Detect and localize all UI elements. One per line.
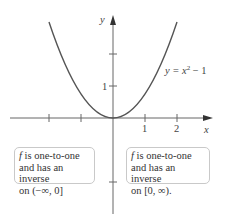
left-note-line3: on (−∞, 0] [19,185,90,197]
left-note-line2: and has an inverse [19,162,90,185]
x-axis-label: x [203,124,209,135]
right-domain-note: f is one-to-one and has an inverse on [0… [126,147,210,184]
y-tick-label-1: 1 [102,81,107,92]
x-axis-arrow-icon [203,115,213,121]
right-note-line2: and has an inverse [131,162,205,185]
x-tick-label-2: 2 [174,123,179,134]
right-note-line1: f is one-to-one [131,150,205,162]
y-axis-arrow-icon [110,15,116,25]
x-tick-label-1: 1 [142,123,147,134]
right-note-line3: on [0, ∞). [131,185,205,197]
curve-label: y = x2 − 1 [164,64,207,76]
left-domain-note: f is one-to-one and has an inverse on (−… [14,147,95,184]
left-note-line1: f is one-to-one [19,150,90,162]
y-axis-label: y [99,14,105,25]
